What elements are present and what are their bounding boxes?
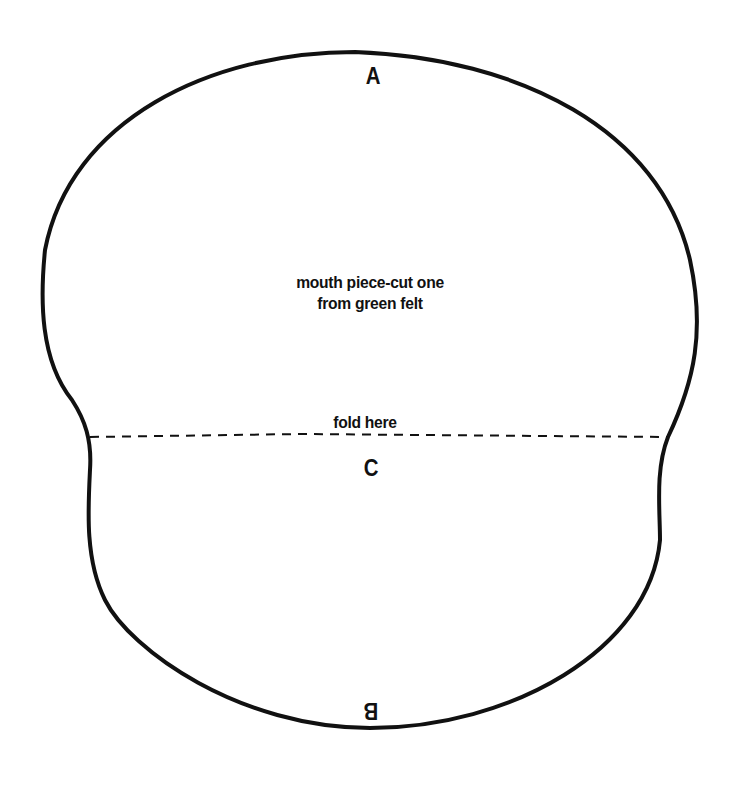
pattern-canvas: A mouth piece-cut one from green felt fo…	[0, 0, 731, 785]
fold-label: fold here	[314, 413, 415, 433]
mouth-piece-outline	[0, 0, 731, 785]
pattern-title-line-1: mouth piece-cut one	[260, 272, 481, 293]
pattern-title-line-2: from green felt	[260, 293, 481, 314]
cut-line	[43, 52, 697, 728]
marker-c: C	[358, 454, 384, 482]
fold-line	[90, 434, 668, 437]
marker-a: A	[360, 62, 386, 90]
marker-b: B	[358, 697, 384, 725]
pattern-title: mouth piece-cut one from green felt	[260, 272, 481, 314]
